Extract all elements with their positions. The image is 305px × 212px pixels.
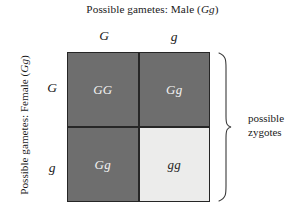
female-genotype-allele: Gg	[18, 59, 30, 73]
male-genotype-allele: Gg	[201, 3, 215, 15]
punnett-cell-gg-heterozygous-top: Gg	[140, 53, 210, 126]
possible-zygotes-caption-line-1: possible	[248, 112, 304, 126]
column-header-recessive-allele: g	[159, 29, 189, 45]
punnett-cell-gg-heterozygous-bottom: Gg	[68, 128, 138, 201]
curly-brace-icon	[216, 52, 232, 202]
female-gametes-axis-label: Possible gametes: Female (Gg)	[18, 45, 30, 205]
male-gametes-axis-label: Possible gametes: Male (Gg)	[0, 3, 305, 15]
possible-zygotes-caption-line-2: zygotes	[248, 126, 304, 140]
female-gametes-label-suffix: )	[18, 55, 30, 59]
row-header-dominant-allele: G	[39, 80, 65, 96]
punnett-square-figure: Possible gametes: Male (Gg) Possible gam…	[0, 0, 305, 212]
possible-zygotes-caption: possible zygotes	[248, 112, 304, 139]
punnett-grid: GG Gg Gg gg	[67, 52, 210, 202]
column-header-dominant-allele: G	[89, 28, 119, 44]
row-header-recessive-allele: g	[39, 160, 65, 176]
male-gametes-label-prefix: Possible gametes: Male (	[86, 3, 201, 15]
punnett-cell-gg-homozygous-recessive: gg	[140, 128, 210, 201]
punnett-cell-gg-homozygous-dominant: GG	[68, 53, 138, 126]
male-gametes-label-suffix: )	[215, 3, 219, 15]
female-gametes-label-prefix: Possible gametes: Female (	[18, 73, 30, 195]
